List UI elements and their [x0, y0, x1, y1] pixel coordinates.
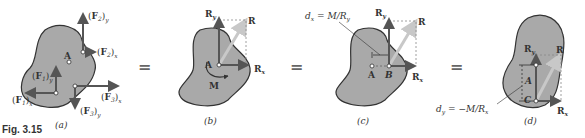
label-point-c: C: [524, 95, 532, 105]
point-f2: [81, 50, 85, 54]
label-f2x: (F2)x: [97, 47, 118, 59]
label-f3x: (F3)x: [101, 92, 122, 104]
point-a: [370, 64, 374, 68]
label-r: R: [248, 16, 256, 26]
caption-a: (a): [55, 120, 68, 130]
figure-caption: Fig. 3.15: [2, 124, 42, 135]
equals-sign-1: =: [138, 57, 151, 76]
figure-3-15: A (F2)y (F2)x (F1)y (F1)x (F3)x (F3)y (a…: [0, 0, 585, 138]
label-rx: Rx: [557, 106, 568, 117]
label-moment-m: M: [209, 81, 219, 91]
label-f2y: (F2)y: [88, 11, 109, 24]
label-point-a: A: [63, 51, 72, 61]
dx-formula: dx = M/Ry: [305, 11, 350, 23]
label-f3y: (F3)y: [80, 106, 101, 119]
caption-c: (c): [357, 116, 370, 126]
equals-sign-2: =: [290, 57, 303, 76]
label-r: R: [556, 45, 564, 55]
panel-a: A (F2)y (F2)x (F1)y (F1)x (F3)x (F3)y (a…: [12, 11, 122, 130]
panel-b: A M Ry R Rx (b): [179, 9, 265, 126]
rigid-body-d: [503, 15, 564, 107]
point-b: [387, 64, 391, 68]
label-point-b: B: [384, 70, 393, 80]
label-point-a: A: [367, 70, 376, 80]
label-r: R: [418, 17, 426, 27]
point-f3: [73, 84, 77, 88]
equals-sign-3: =: [450, 57, 463, 76]
point-a: [217, 63, 221, 67]
rigid-body-a: [21, 25, 95, 107]
label-ry: Ry: [205, 9, 216, 21]
point-a: [534, 63, 538, 67]
point-f1: [54, 91, 58, 95]
label-ry: Ry: [375, 8, 386, 20]
panel-c: A B dx = M/Ry Ry R Rx (c): [305, 8, 426, 126]
label-rx: Rx: [254, 64, 265, 75]
point-c: [534, 99, 538, 103]
label-point-a: A: [524, 76, 532, 86]
caption-b: (b): [204, 116, 217, 126]
label-point-a: A: [204, 60, 213, 70]
dy-formula: dy = −M/Rx: [436, 104, 489, 116]
rigid-body-b: [179, 28, 250, 106]
label-rx: Rx: [412, 72, 423, 83]
caption-d: (d): [524, 116, 537, 126]
